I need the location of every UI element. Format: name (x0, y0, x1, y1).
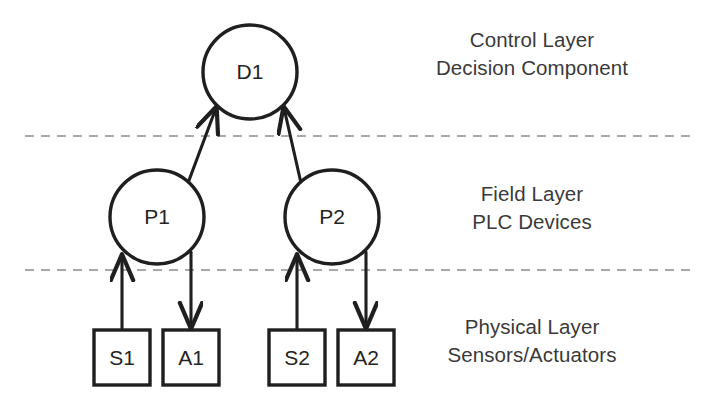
node-actuator-a1[interactable]: A1 (163, 330, 219, 385)
sensor2-label: S2 (284, 346, 310, 369)
actuator1-label: A1 (178, 346, 204, 369)
node-decision-d1[interactable]: D1 (203, 25, 297, 119)
node-plc-p2[interactable]: P2 (285, 170, 379, 264)
control-layer-subtitle: Decision Component (392, 54, 672, 82)
node-sensor-s2[interactable]: S2 (269, 330, 325, 385)
diagram-canvas: D1 P1 P2 S1 A1 S2 A2 Control Lay (0, 0, 704, 409)
field-layer-subtitle: PLC Devices (392, 208, 672, 236)
plc2-label: P2 (319, 205, 345, 228)
node-actuator-a2[interactable]: A2 (338, 330, 394, 385)
physical-layer-subtitle: Sensors/Actuators (392, 341, 672, 369)
sensor1-label: S1 (109, 346, 135, 369)
node-plc-p1[interactable]: P1 (110, 170, 204, 264)
edge-p1-to-d1 (188, 108, 216, 183)
field-layer-title: Field Layer (392, 180, 672, 208)
edge-p2-to-d1 (284, 108, 301, 183)
actuator2-label: A2 (353, 346, 379, 369)
plc1-label: P1 (144, 205, 170, 228)
control-layer-caption: Control Layer Decision Component (392, 26, 672, 83)
physical-layer-title: Physical Layer (392, 313, 672, 341)
field-layer-caption: Field Layer PLC Devices (392, 180, 672, 237)
decision-label: D1 (237, 60, 264, 83)
physical-layer-caption: Physical Layer Sensors/Actuators (392, 313, 672, 370)
node-sensor-s1[interactable]: S1 (94, 330, 150, 385)
control-layer-title: Control Layer (392, 26, 672, 54)
